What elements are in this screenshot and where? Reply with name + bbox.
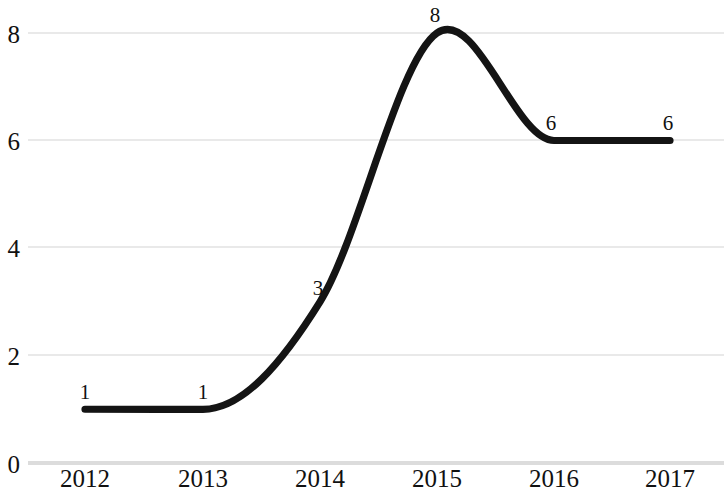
y-tick-label-6: 6 xyxy=(8,128,21,155)
data-label-2012: 1 xyxy=(80,380,91,404)
data-label-2017: 6 xyxy=(663,111,674,135)
data-label-2014: 3 xyxy=(313,276,324,300)
data-label-2015: 8 xyxy=(430,3,441,27)
x-tick-label-2015: 2015 xyxy=(412,465,462,491)
data-label-2013: 1 xyxy=(198,380,209,404)
gridlines-group xyxy=(28,33,724,463)
y-tick-label-8: 8 xyxy=(8,21,21,48)
chart-canvas: 8 6 4 2 0 1 1 3 8 6 6 2012 2013 2014 201… xyxy=(0,0,724,491)
y-tick-label-4: 4 xyxy=(8,235,21,262)
y-tick-label-2: 2 xyxy=(8,343,21,370)
x-tick-label-2017: 2017 xyxy=(645,465,695,491)
y-axis-ticks: 8 6 4 2 0 xyxy=(8,21,21,478)
x-tick-label-2012: 2012 xyxy=(60,465,110,491)
y-tick-label-0: 0 xyxy=(8,451,21,478)
line-chart: 8 6 4 2 0 1 1 3 8 6 6 2012 2013 2014 201… xyxy=(0,0,724,491)
data-labels-group: 1 1 3 8 6 6 xyxy=(80,3,674,404)
x-tick-label-2014: 2014 xyxy=(295,465,346,491)
x-tick-label-2013: 2013 xyxy=(178,465,228,491)
data-label-2016: 6 xyxy=(546,111,557,135)
data-series-line xyxy=(85,29,670,409)
x-tick-label-2016: 2016 xyxy=(529,465,579,491)
x-axis-ticks: 2012 2013 2014 2015 2016 2017 xyxy=(60,465,695,491)
